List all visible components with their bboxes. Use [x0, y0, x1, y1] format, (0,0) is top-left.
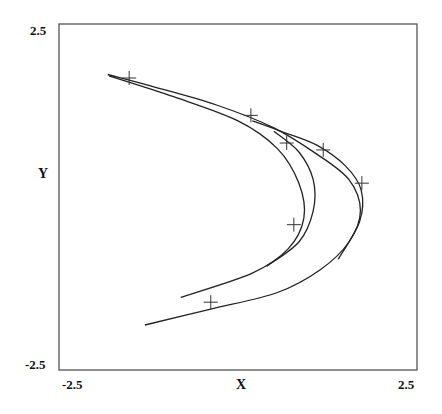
plus-marker-icon: [122, 71, 136, 85]
x-axis-label: X: [236, 377, 246, 392]
plus-markers: [122, 71, 369, 309]
y-tick-min: -2.5: [25, 357, 46, 372]
x-tick-min: -2.5: [62, 377, 83, 392]
curve-attractor-inner: [109, 76, 304, 297]
x-tick-max: 2.5: [398, 377, 415, 392]
chart: 2.5 -2.5 -2.5 2.5 Y X: [0, 0, 442, 414]
y-axis-label: Y: [38, 166, 48, 181]
attractor-curves: [108, 75, 363, 326]
plus-marker-icon: [355, 176, 369, 190]
curve-attractor-fold: [252, 121, 362, 259]
plus-marker-icon: [204, 295, 218, 309]
y-tick-max: 2.5: [30, 23, 47, 38]
plus-marker-icon: [287, 218, 301, 232]
curve-attractor-outer: [108, 75, 361, 326]
